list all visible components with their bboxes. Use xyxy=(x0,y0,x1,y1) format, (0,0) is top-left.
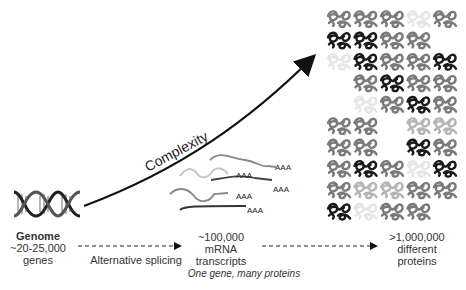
mrna-line2: mRNA xyxy=(205,243,237,255)
protein-icon xyxy=(355,33,377,48)
protein-icon xyxy=(381,97,403,112)
protein-icon xyxy=(328,140,350,155)
complexity-label: Complexity xyxy=(142,128,211,175)
protein-icon xyxy=(434,118,456,133)
protein-icon xyxy=(434,54,456,69)
splicing-label: Alternative splicing xyxy=(86,254,186,266)
protein-icon xyxy=(355,76,377,91)
genome-title: Genome xyxy=(16,230,60,242)
protein-icon xyxy=(434,97,456,112)
polya-tail-label: AAA xyxy=(236,192,253,201)
protein-icon xyxy=(381,76,403,91)
protein-icon xyxy=(381,183,403,198)
polya-tail-label: AAA xyxy=(273,185,290,194)
polya-tail-label: AAA xyxy=(247,206,264,215)
protein-icon xyxy=(381,204,403,219)
mrna-count: ~100,000 xyxy=(198,231,244,243)
protein-icon xyxy=(408,118,430,133)
protein-icon xyxy=(328,161,350,176)
mrna-transcripts-icon xyxy=(170,155,276,210)
protein-icon xyxy=(328,54,350,69)
protein-icon xyxy=(381,33,403,48)
protein-icon xyxy=(355,204,377,219)
proteins-line2: different xyxy=(397,243,437,255)
protein-icon xyxy=(408,54,430,69)
caption: One gene, many proteins xyxy=(174,268,314,279)
protein-icon xyxy=(408,204,430,219)
polya-tail-label: AAA xyxy=(275,163,292,172)
protein-icon xyxy=(355,54,377,69)
protein-icon xyxy=(434,11,456,26)
protein-icon xyxy=(328,118,350,133)
proteins-count: >1,000,000 xyxy=(389,231,444,243)
protein-icon xyxy=(355,97,377,112)
protein-icon xyxy=(355,161,377,176)
polya-tail-label: AAA xyxy=(236,171,253,180)
genome-count: ~20-25,000 xyxy=(10,242,66,254)
dna-helix-icon xyxy=(14,192,80,216)
protein-icon xyxy=(355,183,377,198)
protein-icon xyxy=(328,183,350,198)
protein-icon xyxy=(381,11,403,26)
protein-icon xyxy=(408,76,430,91)
protein-icon xyxy=(381,161,403,176)
proteins-label: >1,000,000 different proteins xyxy=(382,231,452,267)
protein-icon xyxy=(434,161,456,176)
protein-icon xyxy=(434,140,456,155)
protein-grid xyxy=(328,11,456,219)
protein-icon xyxy=(434,183,456,198)
protein-icon xyxy=(408,11,430,26)
protein-icon xyxy=(355,140,377,155)
protein-icon xyxy=(328,11,350,26)
protein-icon xyxy=(355,118,377,133)
protein-icon xyxy=(328,33,350,48)
protein-icon xyxy=(434,76,456,91)
mrna-label: ~100,000 mRNA transcripts xyxy=(186,231,256,267)
protein-icon xyxy=(408,183,430,198)
protein-icon xyxy=(408,97,430,112)
genome-unit: genes xyxy=(23,254,53,266)
protein-icon xyxy=(381,54,403,69)
protein-icon xyxy=(355,11,377,26)
protein-icon xyxy=(408,33,430,48)
protein-icon xyxy=(408,140,430,155)
mrna-line3: transcripts xyxy=(196,255,247,267)
protein-icon xyxy=(408,161,430,176)
genome-label: Genome ~20-25,000 genes xyxy=(2,230,74,266)
protein-icon xyxy=(328,204,350,219)
proteins-line3: proteins xyxy=(397,255,436,267)
